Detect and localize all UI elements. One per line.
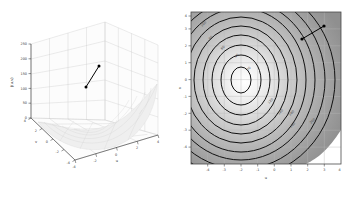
surface-utick-3: 2	[136, 146, 138, 150]
contour-ytick-8: -4	[184, 145, 187, 149]
contour-xtick-3: -1	[256, 168, 259, 172]
surface-ztick-5: 250	[21, 42, 27, 46]
contour-ytick-3: 1	[185, 61, 187, 65]
surface-ztick-3: 150	[21, 72, 27, 76]
contour-x-axis: -4 -3 -2 -1 0 1 2 3 4 u	[206, 164, 341, 180]
contour-yaxis-title: v	[178, 86, 182, 89]
surface-utick-0: -4	[72, 165, 75, 169]
contour-plot-panel: 20 40 60 80 100 120 140 160 180 200	[178, 0, 356, 203]
contour-xaxis-title: u	[265, 176, 267, 180]
contour-xtick-6: 2	[307, 168, 309, 172]
surface-vtick-4: -4	[67, 161, 70, 165]
contour-fill	[191, 12, 341, 164]
surface-ztick-1: 50	[23, 101, 27, 105]
contour-xtick-4: 0	[273, 168, 275, 172]
contour-ytick-5: -1	[184, 95, 187, 99]
surface-uaxis-title: u	[116, 159, 118, 163]
surface-z-axis: 250 200 150 100 50 0 J(u,v)	[10, 42, 31, 120]
surface-utick-4: 4	[157, 140, 159, 144]
surface-ztick-4: 200	[21, 57, 27, 61]
contour-ytick-1: 3	[185, 27, 187, 31]
surface-utick-1: -2	[93, 159, 96, 163]
contour-ytick-7: -3	[184, 128, 187, 132]
surface-zaxis-title: J(u,v)	[10, 77, 14, 88]
contour-xtick-0: -4	[206, 168, 209, 172]
surface-vtick-2: 0	[46, 140, 48, 144]
surface-plot-svg: 250 200 150 100 50 0 J(u,v) 4 2 0 -2	[0, 0, 178, 203]
surface-plot-panel: 250 200 150 100 50 0 J(u,v) 4 2 0 -2	[0, 0, 178, 203]
step-start-marker	[85, 86, 88, 89]
surface-vtick-1: 2	[35, 129, 37, 133]
contour-ytick-4: 0	[185, 78, 187, 82]
contour-plot-svg: 20 40 60 80 100 120 140 160 180 200	[178, 0, 356, 203]
contour-xtick-1: -3	[223, 168, 226, 172]
contour-y-axis: 4 3 2 1 0 -1 -2 -3 -4 v	[178, 14, 191, 149]
contour-ytick-2: 2	[185, 44, 187, 48]
contour-xtick-2: -2	[239, 168, 242, 172]
surface-vtick-0: 4	[24, 119, 26, 123]
surface-utick-2: 0	[115, 153, 117, 157]
contour-xtick-5: 1	[290, 168, 292, 172]
figure-root: 250 200 150 100 50 0 J(u,v) 4 2 0 -2	[0, 0, 356, 203]
contour-xtick-7: 3	[323, 168, 325, 172]
contour-xtick-8: 4	[338, 168, 340, 172]
surface-vaxis-title: v	[35, 140, 38, 144]
contour-ytick-6: -2	[184, 112, 187, 116]
contour-step-start-marker	[300, 37, 303, 40]
surface-ztick-2: 100	[21, 87, 27, 91]
contour-ytick-0: 4	[185, 14, 187, 18]
step-end-marker	[98, 65, 101, 68]
surface-vtick-3: -2	[56, 150, 59, 154]
contour-step-end-marker	[322, 24, 325, 27]
